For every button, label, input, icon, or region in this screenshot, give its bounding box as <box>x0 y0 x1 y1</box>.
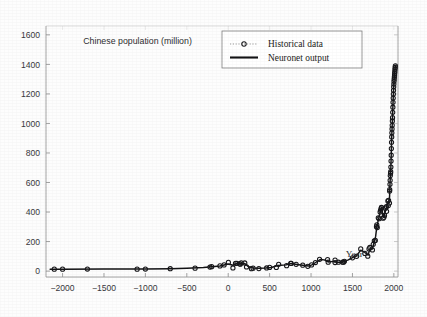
y-tick-label: 0 <box>35 266 40 276</box>
y-tick-label: 1200 <box>21 89 40 99</box>
x-tick-label: 1500 <box>343 283 362 293</box>
data-point-marker <box>231 266 235 270</box>
y-tick-label: 600 <box>26 178 41 188</box>
y-tick-label: 1600 <box>21 30 40 40</box>
y-tick-label: 1000 <box>21 119 40 129</box>
y-tick-label: 200 <box>26 237 41 247</box>
population-chart-figure: 02004006008001000120014001600−2000−1500−… <box>0 0 427 317</box>
x-tick-label: 2000 <box>384 283 403 293</box>
y-tick-label: 400 <box>26 207 41 217</box>
x-tick-label: 0 <box>226 283 231 293</box>
y-tick-label: 1400 <box>21 60 40 70</box>
historical-data-markers <box>52 64 397 272</box>
chart-title: Chinese population (million) <box>83 36 192 46</box>
x-tick-label: −1500 <box>92 283 116 293</box>
x-tick-label: 500 <box>262 283 277 293</box>
legend-label-neuronet-output: Neuronet output <box>268 53 330 63</box>
x-tick-label: 1000 <box>301 283 320 293</box>
legend: Historical dataNeuronet output <box>222 31 362 68</box>
neuronet-output-line <box>50 66 395 270</box>
legend-label-historical-data: Historical data <box>268 39 324 49</box>
x-tick-label: −1000 <box>133 283 157 293</box>
x-tick-label: −2000 <box>50 283 74 293</box>
x-tick-label: −500 <box>177 283 197 293</box>
y-tick-label: 800 <box>26 148 41 158</box>
x-axis-label: Year <box>346 249 363 259</box>
